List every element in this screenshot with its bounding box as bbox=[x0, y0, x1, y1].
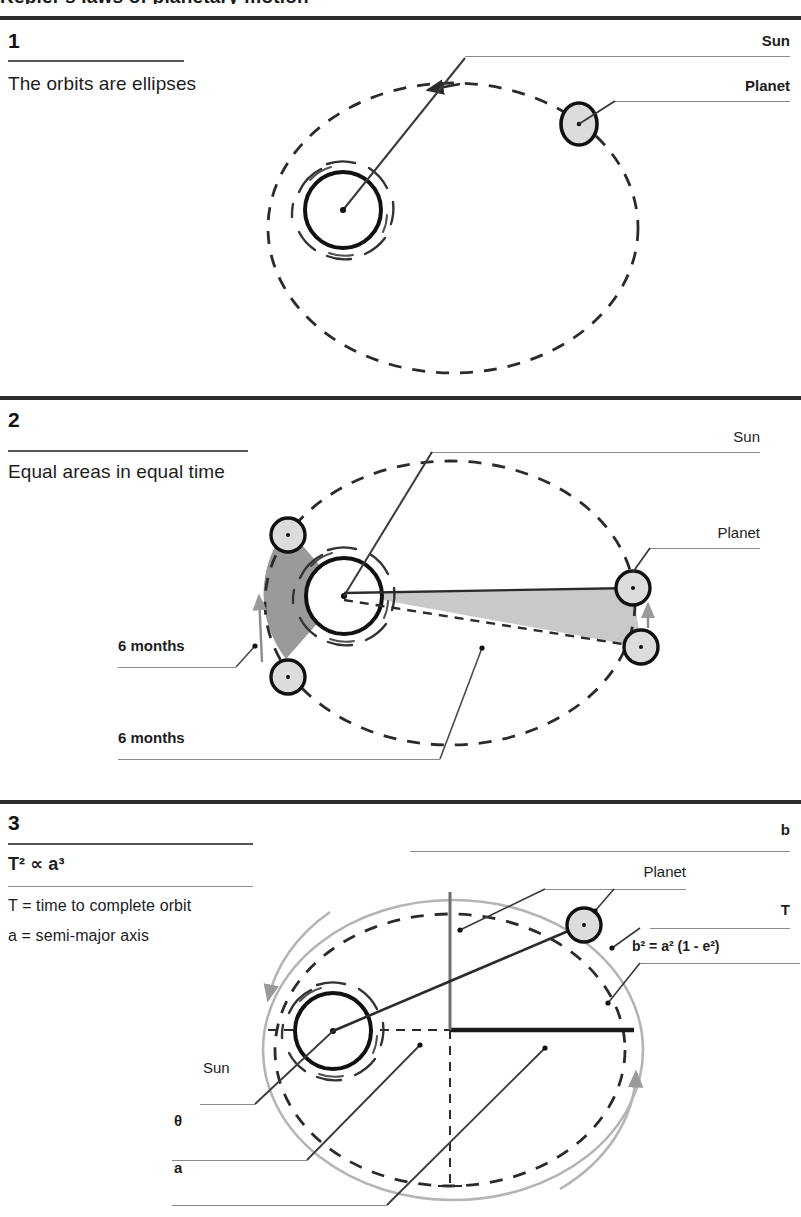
sun-leader-line-3 bbox=[255, 1031, 333, 1104]
leader-planet-2 bbox=[650, 548, 760, 549]
period-ellipse-outer bbox=[263, 900, 643, 1200]
label-theta-3: θ bbox=[174, 1113, 182, 1129]
label-planet-3: Planet bbox=[500, 864, 686, 880]
period-direction-arrow-2 bbox=[268, 912, 330, 1000]
planet-icon-2c bbox=[616, 571, 650, 605]
leader-a-3 bbox=[172, 1205, 387, 1206]
b-leader-line-3 bbox=[460, 889, 545, 930]
legend-T-3: T = time to complete orbit bbox=[8, 894, 191, 918]
leader-formula-3 bbox=[640, 963, 800, 964]
sun-icon-2 bbox=[293, 547, 394, 645]
orbit-ellipse-2 bbox=[265, 461, 635, 745]
section-description-2: Equal areas in equal time bbox=[8, 460, 248, 484]
leader-sun-3 bbox=[200, 1104, 255, 1105]
legend-a-3: a = semi-major axis bbox=[8, 924, 149, 948]
leader-sun-2 bbox=[430, 452, 760, 453]
months-leader-2 bbox=[440, 648, 482, 759]
label-a-3: a bbox=[174, 1160, 182, 1176]
section-rule-2 bbox=[8, 450, 248, 452]
section-description-1: The orbits are ellipses bbox=[8, 72, 198, 96]
label-sun-3: Sun bbox=[203, 1060, 230, 1076]
section-rule-3a bbox=[8, 843, 253, 845]
label-months-1: 6 months bbox=[118, 638, 185, 654]
section-number-2: 2 bbox=[8, 409, 20, 430]
infographic-page: Kepler's laws of planetary motion 1 The … bbox=[0, 0, 801, 1217]
label-sun-1: Sun bbox=[560, 33, 790, 49]
diagram-kepler-second-law bbox=[236, 452, 658, 759]
section-number-1: 1 bbox=[8, 30, 20, 51]
label-planet-2: Planet bbox=[520, 525, 760, 541]
leader-months-1 bbox=[118, 667, 236, 668]
page-title: Kepler's laws of planetary motion bbox=[0, 0, 801, 4]
sun-icon-1 bbox=[292, 161, 393, 259]
radius-vector-a bbox=[344, 588, 633, 593]
label-b-3: b bbox=[560, 822, 790, 838]
theta-leader-line-3 bbox=[307, 1045, 420, 1160]
planet-icon-2d bbox=[624, 630, 658, 664]
orbit-direction-arrow-1 bbox=[428, 84, 460, 90]
section-divider-1 bbox=[0, 16, 801, 20]
diagram-kepler-first-law bbox=[268, 58, 638, 373]
leader-theta-3 bbox=[172, 1160, 307, 1161]
leader-planet-1 bbox=[615, 101, 790, 102]
months-leader-1 bbox=[236, 646, 255, 667]
sun-leader-line-1 bbox=[343, 58, 465, 210]
swept-area-aphelion bbox=[344, 588, 641, 647]
period-direction-arrow bbox=[560, 1072, 636, 1189]
planet-leader-line-1 bbox=[579, 101, 615, 124]
section-divider-3 bbox=[0, 800, 801, 804]
orbit-ellipse-1 bbox=[268, 83, 638, 373]
sun-leader-line-2 bbox=[344, 452, 432, 596]
label-formula-3: b² = a² (1 - e²) bbox=[632, 938, 720, 954]
formula-leader-line-3 bbox=[608, 963, 640, 1003]
planet-icon-2a bbox=[271, 518, 305, 552]
leader-b-3 bbox=[410, 851, 790, 852]
leader-months-2 bbox=[118, 759, 440, 760]
label-T-3: T bbox=[560, 902, 790, 918]
diagram-artwork bbox=[0, 0, 801, 1217]
leader-sun-1 bbox=[465, 56, 790, 57]
label-sun-2: Sun bbox=[520, 429, 760, 445]
section-divider-2 bbox=[0, 396, 801, 400]
sun-icon-3 bbox=[282, 982, 383, 1080]
a-leader-line-3 bbox=[387, 1048, 545, 1205]
planet-icon-1 bbox=[561, 103, 597, 145]
planet-icon-2b bbox=[271, 660, 305, 694]
radius-vector-b bbox=[344, 600, 641, 647]
leader-planet-3 bbox=[545, 889, 686, 890]
label-months-2: 6 months bbox=[118, 730, 185, 746]
leader-T-3 bbox=[650, 928, 790, 929]
section-formula-3: T² ∝ a³ bbox=[8, 852, 65, 876]
label-planet-1: Planet bbox=[560, 78, 790, 94]
motion-arrow-left bbox=[259, 596, 262, 662]
section-number-3: 3 bbox=[8, 812, 20, 833]
section-rule-3b bbox=[8, 886, 253, 887]
section-rule-1 bbox=[8, 60, 184, 62]
orbit-ellipse-3 bbox=[275, 914, 625, 1186]
radius-vector-3 bbox=[333, 929, 573, 1031]
diagram-kepler-third-law bbox=[255, 889, 643, 1205]
planet-leader-line-2 bbox=[633, 548, 650, 572]
swept-area-perihelion bbox=[264, 528, 344, 659]
